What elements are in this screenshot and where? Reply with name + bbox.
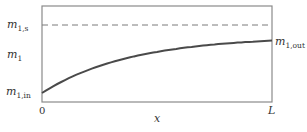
- x-axis-label: x: [154, 112, 161, 125]
- label-m1-axis: m1: [7, 48, 22, 63]
- label-m1s: m1,s: [7, 18, 29, 33]
- label-m1out: m1,out: [275, 35, 305, 50]
- concentration-curve: [42, 41, 272, 93]
- x-tick-L: L: [267, 104, 275, 117]
- plot-frame: [42, 6, 272, 102]
- label-m1in: m1,in: [6, 85, 31, 100]
- chart-figure: m1,s m1 m1,in m1,out 0 L x: [0, 0, 307, 132]
- x-tick-zero: 0: [39, 105, 45, 116]
